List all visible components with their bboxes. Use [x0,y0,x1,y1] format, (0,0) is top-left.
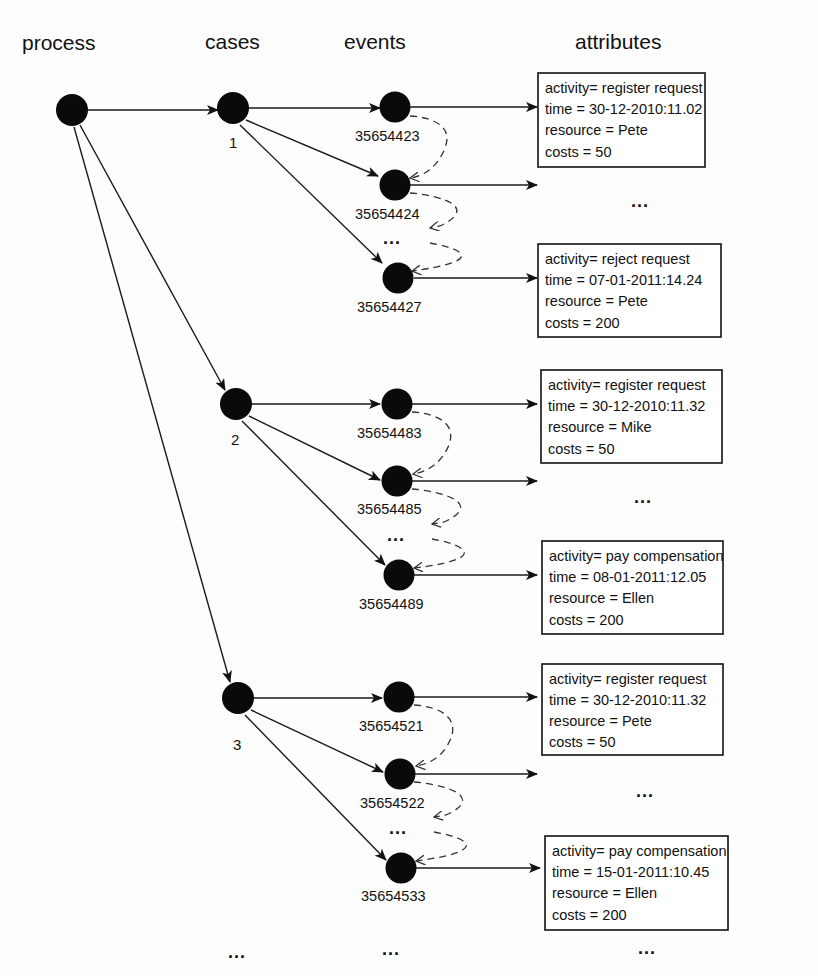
case-node-2 [220,388,252,420]
header-cases: cases [205,30,260,53]
attr-resource: resource = Mike [548,419,652,435]
header-attributes: attributes [575,30,661,53]
ellipsis: ... [631,191,649,211]
attr-time: time = 15-01-2011:10.45 [552,864,709,880]
attr-activity: activity= pay compensation [552,843,727,859]
event-id-label: 35654423 [355,128,420,144]
event-node-35654424 [380,170,411,201]
attr-resource: resource = Pete [545,293,648,309]
event-id-label: 35654427 [357,299,422,315]
attr-costs: costs = 50 [548,441,615,457]
attr-resource: resource = Ellen [549,590,654,606]
attr-time: time = 07-01-2011:14.24 [545,272,702,288]
attr-time: time = 30-12-2010:11.32 [549,692,706,708]
event-id-label: 35654424 [355,206,420,222]
edge-case3-event3 [245,715,386,860]
process-event-hierarchy-diagram: process cases events attributes 1 356544… [0,0,818,976]
ellipsis: ... [634,487,652,507]
ellipsis: ... [636,781,654,801]
process-node [56,94,88,126]
event-node-35654522 [385,759,416,790]
attr-costs: costs = 200 [552,907,627,923]
attr-time: time = 30-12-2010:11.32 [548,398,705,414]
attr-activity: activity= register request [548,377,706,393]
attr-time: time = 30-12-2010:11.02 [545,101,702,117]
event-id-label: 35654489 [359,596,424,612]
dashed-order-arrow [416,832,466,861]
attr-resource: resource = Ellen [552,885,657,901]
event-node-35654533 [386,853,417,884]
event-id-label: 35654483 [357,425,422,441]
event-node-35654489 [384,560,415,591]
edge-process-case-3 [74,127,230,682]
event-id-label: 35654485 [357,501,422,517]
case-label-3: 3 [233,736,241,753]
event-node-35654427 [383,263,414,294]
dashed-order-arrow [412,243,462,271]
diagram-svg: process cases events attributes 1 356544… [0,0,818,976]
event-node-35654485 [382,466,413,497]
event-id-label: 35654521 [359,718,424,734]
event-node-35654423 [380,92,411,123]
attr-activity: activity= reject request [545,251,690,267]
dashed-order-arrow [414,705,453,766]
case-group-3: 3 35654521 35654522 ... 35654533 activit… [222,664,728,930]
event-id-label: 35654522 [360,795,425,811]
dashed-order-arrow [412,412,451,474]
attr-costs: costs = 200 [549,612,624,628]
case-label-1: 1 [229,134,237,151]
attr-activity: activity= pay compensation [549,548,724,564]
ellipsis: ... [389,818,407,838]
attr-resource: resource = Pete [549,713,652,729]
event-node-35654521 [384,682,415,713]
ellipsis: ... [387,525,405,545]
edge-process-case-2 [80,125,225,390]
dashed-order-arrow [414,539,464,568]
edge-case2-event3 [242,421,385,565]
dashed-order-arrow [410,116,447,178]
attr-costs: costs = 200 [545,315,620,331]
ellipsis-more-events: ... [382,939,400,959]
case-group-2: 2 35654483 35654485 ... 35654489 activit… [220,370,724,634]
ellipsis: ... [383,228,401,248]
attr-costs: costs = 50 [545,144,612,160]
process-case-edges [74,110,230,682]
case-node-3 [222,682,254,714]
edge-case1-event3 [240,125,382,263]
case-group-1: 1 35654423 35654424 ... 35654427 activit… [217,73,721,337]
header-events: events [344,30,406,53]
attr-resource: resource = Pete [545,122,648,138]
header-process: process [22,31,96,54]
attr-activity: activity= register request [549,671,707,687]
ellipsis-more-attributes: ... [638,938,656,958]
event-node-35654483 [382,389,413,420]
attr-activity: activity= register request [545,80,703,96]
case-label-2: 2 [231,431,239,448]
attr-costs: costs = 50 [549,734,616,750]
case-node-1 [217,92,249,124]
ellipsis-more-cases: ... [228,942,246,962]
event-id-label: 35654533 [361,888,426,904]
attr-time: time = 08-01-2011:12.05 [549,569,706,585]
